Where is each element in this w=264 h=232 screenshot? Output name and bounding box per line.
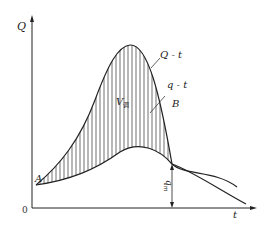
inflow-curve <box>36 45 237 187</box>
origin-label: 0 <box>22 205 28 215</box>
point-b-label: B <box>171 98 179 109</box>
flood-routing-diagram: Q t 0 Q - t q - t A B V调 qm <box>0 0 264 232</box>
inflow-curve-label: Q - t <box>160 49 183 60</box>
outflow-curve-label: q - t <box>167 79 188 90</box>
inflow-leader-line <box>151 58 160 68</box>
qm-arrow-down-icon <box>170 202 174 208</box>
volume-label: V调 <box>116 96 129 109</box>
x-axis-arrow-icon <box>250 206 257 210</box>
y-axis-label: Q <box>17 20 26 33</box>
storage-volume-hatch <box>40 0 168 232</box>
outflow-curve <box>36 147 246 204</box>
x-axis-label: t <box>233 209 238 220</box>
point-a-label: A <box>34 173 42 184</box>
y-axis-arrow-icon <box>30 15 34 22</box>
